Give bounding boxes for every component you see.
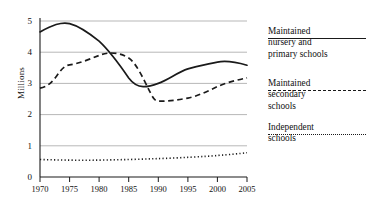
x-tick-1975: 1975 <box>55 184 85 194</box>
legend-label-line1: Maintained <box>268 26 370 37</box>
y-tick-3: 3 <box>18 78 32 88</box>
x-tick-1990: 1990 <box>143 184 173 194</box>
x-tick-marks <box>40 177 247 182</box>
series-line-maintained-nursery-primary <box>40 23 247 87</box>
legend-line-sample-dotted <box>268 134 366 135</box>
y-tick-0: 0 <box>18 172 32 182</box>
legend-item-independent: Independent schools <box>268 122 370 145</box>
legend-label-line2: schools <box>268 133 370 144</box>
x-tick-2000: 2000 <box>202 184 232 194</box>
y-tick-2: 2 <box>18 109 32 119</box>
legend-line-sample-dashed <box>268 90 366 91</box>
line-chart-svg <box>0 0 262 198</box>
x-tick-1970: 1970 <box>25 184 55 194</box>
x-tick-1980: 1980 <box>84 184 114 194</box>
legend-label-line1: Maintained <box>268 78 370 89</box>
chart-figure: Millions 5 4 3 2 1 0 1970 1975 1980 1985… <box>0 0 370 198</box>
legend-label-line3: schools <box>268 101 370 112</box>
series-line-independent <box>40 153 247 161</box>
x-tick-1995: 1995 <box>173 184 203 194</box>
gridlines <box>40 21 247 146</box>
legend-label-line2: nursery and <box>268 37 370 48</box>
legend-item-maintained-nursery-primary: Maintained nursery and primary schools <box>268 26 370 60</box>
legend-label-line3: primary schools <box>268 49 370 60</box>
series-line-maintained-secondary <box>40 53 247 101</box>
legend-line-sample-solid <box>268 38 366 39</box>
chart-plot-area: Millions 5 4 3 2 1 0 1970 1975 1980 1985… <box>0 0 262 198</box>
x-tick-2005: 2005 <box>232 184 262 194</box>
y-tick-5: 5 <box>18 16 32 26</box>
legend-label-line1: Independent <box>268 122 370 133</box>
legend-item-maintained-secondary: Maintained secondary schools <box>268 78 370 112</box>
y-tick-4: 4 <box>18 47 32 57</box>
x-tick-1985: 1985 <box>114 184 144 194</box>
chart-legend: Maintained nursery and primary schools M… <box>268 0 370 198</box>
legend-label-line2: secondary <box>268 89 370 100</box>
y-tick-1: 1 <box>18 141 32 151</box>
